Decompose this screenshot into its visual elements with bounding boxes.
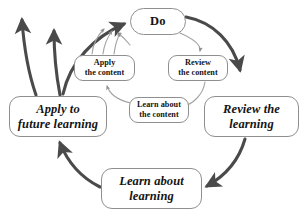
node-apply-the-content[interactable]: Apply the content <box>74 55 135 81</box>
node-learn-about-learning-label: Learn about learning <box>116 174 187 203</box>
node-learn-about-learning[interactable]: Learn about learning <box>101 168 202 209</box>
node-learn-about-the-content[interactable]: Learn about the content <box>129 97 189 123</box>
outbound-arrows <box>22 20 60 95</box>
node-do[interactable]: Do <box>130 8 186 35</box>
node-learn-about-the-content-label: Learn about the content <box>134 100 184 119</box>
arrow-learn-content-to-apply-content <box>107 86 131 103</box>
node-review-the-learning-label: Review the learning <box>220 102 283 131</box>
arrow-apply-content-to-do-d <box>118 33 130 45</box>
node-apply-to-future-learning-label: Apply to future learning <box>15 102 101 131</box>
node-review-the-learning[interactable]: Review the learning <box>204 96 299 137</box>
node-apply-the-content-label: Apply the content <box>82 58 127 77</box>
arrow-review-learning-to-learn-learning <box>207 139 245 186</box>
diagram-canvas: Do Review the learning Learn about learn… <box>0 0 307 219</box>
outbound-arrow-1 <box>22 20 36 95</box>
node-apply-to-future-learning[interactable]: Apply to future learning <box>9 96 107 137</box>
node-review-the-content[interactable]: Review the content <box>168 55 228 81</box>
arrow-do-to-review-content <box>180 33 200 51</box>
arrow-learn-learning-to-apply-future <box>60 143 100 187</box>
arrow-apply-content-to-do-c <box>114 33 120 54</box>
node-do-label: Do <box>147 14 169 29</box>
outbound-arrow-2 <box>54 31 60 95</box>
node-review-the-content-label: Review the content <box>175 58 220 77</box>
